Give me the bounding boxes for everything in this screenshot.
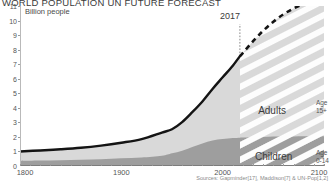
x-axis-tick xyxy=(81,164,82,167)
y-axis-tick-label: 6 xyxy=(3,75,17,82)
x-axis-tick xyxy=(243,164,244,167)
x-axis-tick xyxy=(131,164,132,167)
children-band-label: Children xyxy=(255,151,292,162)
x-axis-tick xyxy=(294,164,295,167)
x-axis-tick xyxy=(111,164,112,167)
x-axis-tick xyxy=(273,164,274,167)
x-axis-tick xyxy=(233,164,234,167)
x-axis-tick xyxy=(152,164,153,167)
y-axis-tick xyxy=(18,151,21,152)
x-axis-tick xyxy=(20,164,21,167)
y-axis-tick-label: 8 xyxy=(3,46,17,53)
y-axis-tick xyxy=(18,93,21,94)
x-axis-tick xyxy=(91,164,92,167)
y-axis-tick xyxy=(18,108,21,109)
y-axis-tick xyxy=(18,64,21,65)
y-axis-tick xyxy=(18,35,21,36)
y-axis-tick xyxy=(18,79,21,80)
x-axis-tick xyxy=(61,164,62,167)
y-axis-tick-label: 5 xyxy=(3,90,17,97)
y-axis-tick xyxy=(18,6,21,7)
x-axis-tick xyxy=(121,164,122,167)
y-axis-tick-label: 4 xyxy=(3,104,17,111)
x-axis-tick xyxy=(50,164,51,167)
y-axis xyxy=(20,6,21,166)
adults-band-label: Adults xyxy=(258,105,286,116)
x-axis-tick xyxy=(202,164,203,167)
x-axis-tick xyxy=(283,164,284,167)
y-axis-tick-label: 1 xyxy=(3,148,17,155)
plot-area: 01234567891011 1800190020002100 xyxy=(20,6,324,166)
x-axis-tick xyxy=(30,164,31,167)
age-children-label: Age 0-14 xyxy=(316,149,329,164)
x-axis-tick xyxy=(142,164,143,167)
x-axis-tick xyxy=(172,164,173,167)
x-axis-tick xyxy=(304,164,305,167)
y-axis-tick-label: 11 xyxy=(3,3,17,10)
y-axis-tick-label: 3 xyxy=(3,119,17,126)
y-axis-tick xyxy=(18,50,21,51)
x-axis-tick xyxy=(253,164,254,167)
y-axis-tick-label: 0 xyxy=(3,163,17,170)
x-axis-tick xyxy=(213,164,214,167)
x-axis-tick xyxy=(162,164,163,167)
x-axis-tick xyxy=(223,164,224,167)
chart-canvas xyxy=(20,6,324,166)
y-axis-tick-label: 9 xyxy=(3,32,17,39)
y-axis-tick-label: 7 xyxy=(3,61,17,68)
source-citation: Sources: Gapminder[17], Maddison[7] & UN… xyxy=(196,175,328,181)
x-axis-tick xyxy=(101,164,102,167)
x-axis-tick xyxy=(263,164,264,167)
x-axis-tick xyxy=(40,164,41,167)
y-axis-tick-label: 10 xyxy=(3,17,17,24)
y-axis-tick xyxy=(18,21,21,22)
y-axis-tick xyxy=(18,122,21,123)
x-axis-tick xyxy=(182,164,183,167)
age-adults-label: Age 15+ xyxy=(316,99,328,114)
x-axis-tick xyxy=(314,164,315,167)
x-axis-tick-label: 1800 xyxy=(17,168,34,177)
y-axis-tick-label: 2 xyxy=(3,133,17,140)
x-axis-tick xyxy=(71,164,72,167)
world-population-chart: WORLD POPULATION UN FUTURE FORECAST Bill… xyxy=(0,0,332,189)
x-axis-tick xyxy=(192,164,193,167)
year-marker-label: 2017 xyxy=(220,11,240,21)
y-axis-tick xyxy=(18,137,21,138)
x-axis-tick-label: 1900 xyxy=(113,168,130,177)
